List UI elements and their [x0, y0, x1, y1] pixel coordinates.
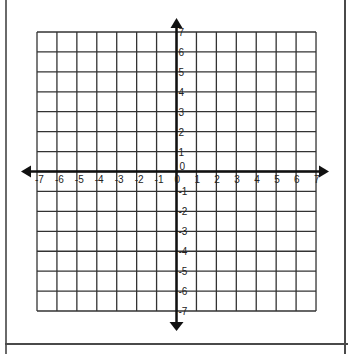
- y-tick-label: -1: [179, 186, 188, 197]
- x-tick-label: -2: [135, 174, 144, 185]
- x-tick-label: 0: [175, 174, 181, 185]
- x-tick-label: -3: [115, 174, 124, 185]
- y-tick-label: 7: [179, 27, 185, 38]
- y-tick-label: -7: [179, 306, 188, 317]
- x-tick-label: -4: [95, 174, 104, 185]
- y-tick-label: 6: [179, 47, 185, 58]
- y-tick-label: -2: [179, 206, 188, 217]
- y-tick-label: 5: [179, 67, 185, 78]
- y-tick-label: -5: [179, 266, 188, 277]
- y-tick-label: 2: [179, 127, 185, 138]
- x-tick-label: -1: [155, 174, 164, 185]
- y-tick-label: -3: [179, 226, 188, 237]
- x-tick-label: 2: [214, 174, 220, 185]
- y-tick-label: 4: [179, 87, 185, 98]
- y-tick-label: 3: [179, 107, 185, 118]
- x-tick-label: 5: [274, 174, 280, 185]
- x-tick-label: 7: [314, 174, 320, 185]
- arrow-right-icon: [319, 166, 329, 178]
- x-tick-label: 1: [194, 174, 200, 185]
- x-tick-label: 4: [254, 174, 260, 185]
- x-tick-label: -7: [35, 174, 44, 185]
- x-axis-labels: -7-6-5-4-3-2-101234567: [35, 174, 320, 185]
- x-tick-label: -5: [75, 174, 84, 185]
- y-tick-label: -4: [179, 246, 188, 257]
- arrow-down-icon: [170, 322, 184, 331]
- y-tick-label: 1: [179, 147, 185, 158]
- x-tick-label: -6: [55, 174, 64, 185]
- coordinate-plane: -7-6-5-4-3-2-101234567 7654321-1-2-3-4-5…: [0, 0, 348, 354]
- y-tick-label: -6: [179, 286, 188, 297]
- origin-label: 0: [180, 161, 186, 172]
- x-tick-label: 6: [294, 174, 300, 185]
- x-tick-label: 3: [234, 174, 240, 185]
- arrow-left-icon: [21, 166, 31, 178]
